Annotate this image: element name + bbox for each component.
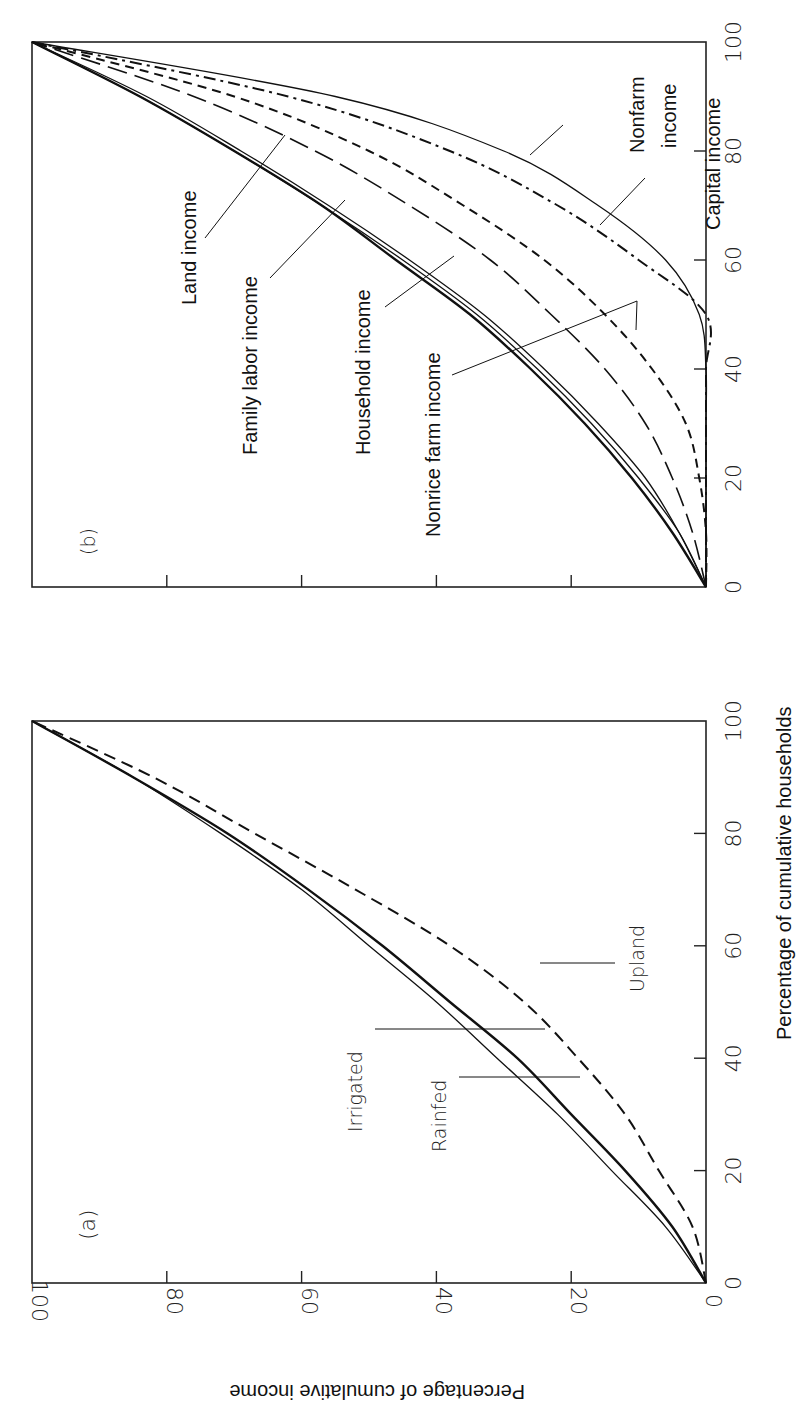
- x-tick-label: 0: [721, 580, 746, 594]
- label-rainfed: Rainfed: [428, 1080, 450, 1152]
- panel-b: 020406080100 (b) Land income Family labo…: [32, 21, 746, 594]
- pointer-family: [270, 200, 345, 278]
- pointer-nonrice-hook: [636, 301, 637, 330]
- curve-upland: [32, 721, 706, 1283]
- lorenz-curves-figure: 020406080100 (b) Land income Family labo…: [0, 0, 805, 1415]
- label-nonrice-farm-income: Nonrice farm income: [422, 352, 444, 537]
- curve-rainfed: [32, 721, 706, 1283]
- y-tick-label: 100: [27, 1280, 52, 1322]
- label-capital-income: Capital income: [702, 98, 724, 230]
- y-tick-label: 20: [566, 1287, 591, 1315]
- x-tick-label: 80: [721, 819, 746, 847]
- x-tick-label: 20: [721, 464, 746, 492]
- x-tick-label: 80: [721, 137, 746, 165]
- panel-a-tag: (a): [75, 1209, 100, 1240]
- panel-a: 020406080100020406080100 (a) Irrigated R…: [27, 700, 746, 1322]
- panel-a-frame: [32, 721, 706, 1283]
- label-upland: Upland: [626, 925, 648, 992]
- x-tick-label: 20: [721, 1157, 746, 1185]
- panel-a-ticks: 020406080100020406080100: [27, 700, 746, 1322]
- x-tick-label: 40: [721, 1044, 746, 1072]
- curve-irrigated: [32, 721, 706, 1283]
- label-nonfarm-income: income: [658, 84, 680, 148]
- panel-b-tag: (b): [77, 528, 99, 555]
- label-family-labor-income: Family labor income: [239, 276, 261, 455]
- y-tick-label: 80: [162, 1287, 187, 1315]
- x-tick-label: 0: [721, 1276, 746, 1290]
- x-tick-label: 60: [721, 932, 746, 960]
- label-household-income: Household income: [352, 289, 374, 455]
- x-tick-label: 60: [721, 246, 746, 274]
- x-tick-label: 40: [721, 355, 746, 383]
- pointer-capital: [600, 178, 645, 225]
- x-axis-title: Percentage of cumulative households: [773, 706, 795, 1040]
- label-nonfarm: Nonfarm: [626, 76, 648, 153]
- pointer-land: [205, 135, 285, 238]
- pointer-nonfarm: [530, 125, 563, 155]
- y-tick-label: 40: [431, 1287, 456, 1315]
- x-tick-label: 100: [721, 21, 746, 63]
- panel-a-curves: [32, 721, 706, 1283]
- y-tick-label: 0: [701, 1294, 726, 1308]
- y-axis-title: Percentage of cumulative income: [229, 1381, 525, 1403]
- y-tick-label: 60: [297, 1287, 322, 1315]
- label-irrigated: Irrigated: [344, 1051, 366, 1132]
- x-tick-label: 100: [721, 700, 746, 742]
- pointer-household: [385, 256, 454, 307]
- label-land-income: Land income: [178, 190, 200, 305]
